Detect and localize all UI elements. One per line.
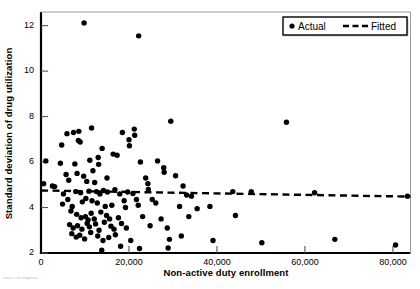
footnote-fragment: source line fragment	[3, 276, 38, 280]
chart-legend: ActualFitted	[283, 17, 409, 37]
svg-text:Actual: Actual	[298, 21, 326, 32]
scatter-chart-figure: Standard deviation of drug utilization N…	[0, 0, 420, 289]
plot-area: ActualFitted	[0, 0, 420, 289]
svg-text:Fitted: Fitted	[371, 21, 396, 32]
actual-data-points	[41, 20, 410, 253]
